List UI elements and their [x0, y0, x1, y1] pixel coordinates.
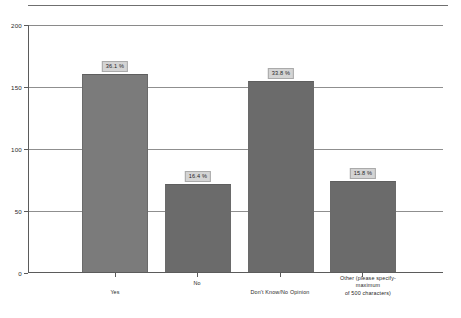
- y-tick-mark-50: [24, 211, 28, 212]
- bar-other[interactable]: [330, 181, 396, 272]
- y-tick-label-0: 0: [18, 270, 22, 277]
- y-tick-label-150: 150: [11, 84, 22, 91]
- x-category-label-no: No: [193, 280, 200, 287]
- y-axis-line: [28, 25, 29, 273]
- y-tick-label-100: 100: [11, 146, 22, 153]
- x-tick-mark-0: [115, 273, 116, 277]
- plot-area: 200 150 100 50 0 36.1 % 16.4 % 33.8 % 15…: [28, 25, 443, 273]
- bar-yes[interactable]: [82, 74, 148, 272]
- x-axis-line: [28, 272, 443, 273]
- bar-dont-know-no-opinion[interactable]: [248, 81, 314, 272]
- y-tick-label-50: 50: [15, 208, 22, 215]
- y-tick-mark-200: [24, 25, 28, 26]
- x-category-label-other: Other (please specify-maximum of 500 cha…: [331, 275, 406, 297]
- x-category-label-dont-know-no-opinion: Don't Know/No Opinion: [250, 289, 309, 296]
- y-tick-mark-150: [24, 87, 28, 88]
- bar-value-no: 16.4 %: [185, 171, 211, 182]
- bar-value-yes: 36.1 %: [102, 61, 128, 72]
- bar-chart: 200 150 100 50 0 36.1 % 16.4 % 33.8 % 15…: [0, 0, 461, 318]
- bar-value-other: 15.8 %: [350, 168, 376, 179]
- x-tick-mark-2: [280, 273, 281, 277]
- y-tick-mark-100: [24, 149, 28, 150]
- header-divider: [28, 5, 448, 6]
- gridline-200: [28, 25, 443, 26]
- y-tick-mark-0: [24, 273, 28, 274]
- bar-no[interactable]: [165, 184, 231, 272]
- y-tick-label-200: 200: [11, 22, 22, 29]
- x-tick-mark-1: [197, 273, 198, 277]
- bar-value-dont-know-no-opinion: 33.8 %: [268, 68, 294, 79]
- x-category-label-yes: Yes: [110, 289, 119, 296]
